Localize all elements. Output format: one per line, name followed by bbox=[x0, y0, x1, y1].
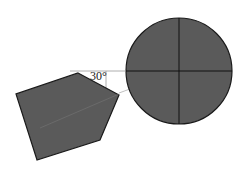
diagram-canvas: 30° bbox=[0, 0, 247, 174]
angle-label: 30° bbox=[90, 69, 107, 83]
pentagon-shape bbox=[16, 73, 119, 160]
